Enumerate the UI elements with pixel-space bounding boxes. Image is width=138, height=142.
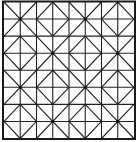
- star-center-node: [51, 120, 54, 123]
- geometric-pattern: [0, 0, 138, 142]
- star-center-node: [19, 86, 22, 89]
- star-center-node: [116, 52, 119, 55]
- star-center-node: [116, 120, 119, 123]
- star-center-node: [84, 17, 87, 20]
- star-center-node: [51, 52, 54, 55]
- star-center-node: [84, 86, 87, 89]
- star-center-node: [19, 17, 22, 20]
